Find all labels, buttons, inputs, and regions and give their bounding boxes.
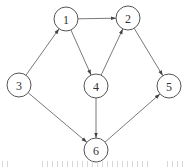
edge-1-to-2 <box>78 18 116 19</box>
node-3: 3 <box>7 73 31 97</box>
node-5: 5 <box>157 74 181 98</box>
edge-1-to-4 <box>71 30 91 75</box>
node-6: 6 <box>84 138 108 162</box>
node-label: 4 <box>93 80 99 94</box>
node-label: 6 <box>93 144 99 158</box>
node-label: 3 <box>16 79 22 93</box>
edge-2-to-5 <box>134 28 163 75</box>
node-2: 2 <box>116 6 140 30</box>
node-label: 1 <box>63 13 69 27</box>
node-label: 5 <box>166 80 172 94</box>
edge-4-to-2 <box>101 29 123 75</box>
figure-caption-truncated <box>0 161 183 167</box>
edge-3-to-6 <box>28 93 87 143</box>
node-1: 1 <box>54 7 78 31</box>
nodes: 123456 <box>7 6 181 162</box>
node-label: 2 <box>125 12 131 26</box>
edge-6-to-5 <box>105 94 160 142</box>
caption-text-fragment <box>0 161 183 167</box>
directed-graph: 123456 <box>0 0 183 167</box>
node-4: 4 <box>84 74 108 98</box>
edge-3-to-1 <box>26 29 59 75</box>
